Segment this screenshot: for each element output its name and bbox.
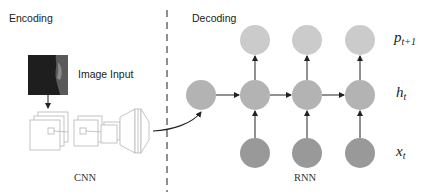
image-captioning-diagram: Encoding Decoding Image Input CNN RNN pt… [0,0,435,194]
diagram-canvas [0,0,435,194]
hidden-node [240,80,270,110]
output-node [345,25,375,55]
output-node [240,25,270,55]
hidden-node [345,80,375,110]
output-math-label: pt+1 [394,29,416,47]
encoding-title: Encoding [9,12,53,24]
output-nodes [240,25,375,55]
output-node [292,25,322,55]
decoding-title: Decoding [192,12,236,24]
rnn-label: RNN [294,172,316,183]
hidden-symbol: h [396,84,404,100]
output-symbol: p [394,29,402,45]
input-subscript: t [403,150,406,161]
input-node [345,138,375,168]
image-input-thumbnail [28,55,68,95]
input-to-hidden-arrows [255,111,360,138]
cnn-schematic [30,109,149,153]
input-symbol: x [396,143,403,159]
hidden-node [292,80,322,110]
input-nodes [240,138,375,168]
image-input-label: Image Input [78,68,133,80]
output-subscript: t+1 [402,36,417,47]
cnn-label: CNN [74,172,96,183]
initial-hidden-node [186,80,216,110]
hidden-to-output-arrows [255,56,360,80]
input-node [292,138,322,168]
input-math-label: xt [396,143,405,161]
hidden-subscript: t [404,91,407,102]
hidden-math-label: ht [396,84,406,102]
input-node [240,138,270,168]
cnn-to-rnn-arrow [153,112,201,131]
